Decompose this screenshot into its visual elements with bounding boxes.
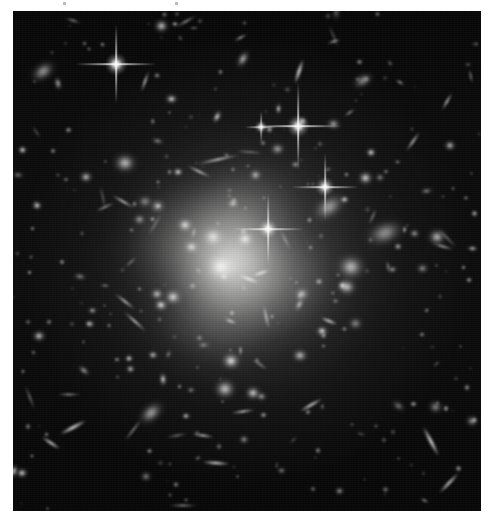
elliptical-galaxy: [336, 277, 358, 296]
lensed-arc: [420, 498, 430, 505]
field-point-source: [414, 86, 416, 88]
field-point-source: [50, 51, 54, 55]
elliptical-galaxy: [244, 385, 262, 401]
cluster-halo: [95, 121, 395, 401]
field-point-source: [30, 454, 34, 458]
diffraction-spike-star: [245, 111, 277, 143]
galaxy: [17, 145, 28, 155]
star-core: [258, 219, 277, 238]
field-point-source: [439, 244, 441, 246]
field-point-source: [410, 401, 416, 407]
field-point-source: [356, 77, 359, 80]
field-point-source: [364, 268, 370, 274]
elliptical-galaxy: [213, 378, 237, 399]
lensed-arc: [395, 79, 405, 87]
elliptical-galaxy: [176, 217, 194, 233]
galaxy: [402, 225, 407, 234]
lensed-arc: [432, 361, 440, 368]
lensed-arc: [386, 260, 390, 273]
lensed-arc: [41, 435, 61, 451]
field-point-source: [424, 309, 428, 313]
field-point-source: [120, 267, 125, 272]
galaxy: [341, 326, 348, 332]
field-point-source: [455, 465, 462, 472]
field-point-source: [167, 169, 173, 175]
galaxy: [274, 101, 282, 115]
field-point-source: [283, 129, 285, 131]
field-point-source: [363, 478, 366, 481]
field-point-source: [314, 456, 317, 459]
field-point-source: [452, 410, 454, 412]
galaxy: [394, 159, 402, 164]
field-point-source: [197, 18, 203, 24]
field-point-source: [464, 384, 471, 391]
field-point-source: [21, 369, 25, 373]
diffraction-spike-star: [76, 24, 156, 104]
galaxy: [291, 348, 308, 363]
field-point-source: [30, 226, 35, 231]
field-point-source: [355, 99, 357, 101]
lensed-arc: [343, 107, 356, 117]
galaxy: [365, 147, 377, 158]
field-point-source: [46, 507, 49, 510]
field-point-source: [471, 210, 478, 217]
lensed-arc: [111, 193, 135, 209]
field-point-source: [332, 298, 339, 305]
field-point-source: [82, 41, 87, 46]
field-point-source: [214, 87, 217, 90]
spike-horizontal: [291, 186, 359, 188]
spike-horizontal: [76, 63, 156, 65]
lensed-arc: [64, 17, 80, 24]
lensed-arc: [368, 208, 377, 226]
lensed-arc: [262, 304, 271, 329]
galaxy: [293, 286, 311, 302]
field-point-source: [137, 287, 142, 292]
field-point-source: [218, 69, 223, 74]
field-point-source: [374, 424, 378, 428]
lensed-arc: [147, 211, 164, 237]
lensed-arc: [99, 284, 109, 288]
galaxy: [195, 341, 211, 351]
field-point-source: [314, 147, 317, 150]
field-point-source: [441, 195, 445, 199]
field-point-source: [29, 255, 33, 259]
field-point-source: [425, 308, 429, 312]
galaxy: [153, 18, 171, 34]
field-point-source: [20, 502, 23, 505]
field-point-source: [275, 462, 279, 466]
galaxy: [290, 160, 301, 170]
field-point-source: [315, 447, 322, 454]
field-point-source: [242, 21, 246, 25]
field-point-source: [219, 377, 223, 381]
field-point-source: [157, 317, 163, 323]
field-point-source: [216, 221, 221, 226]
spike-horizontal: [254, 125, 342, 127]
elliptical-galaxy: [306, 187, 351, 228]
lensed-arc: [175, 15, 197, 29]
field-point-source: [240, 228, 247, 235]
field-point-source: [157, 460, 164, 467]
field-point-source: [383, 169, 389, 175]
galaxy: [52, 75, 64, 93]
elliptical-galaxy: [112, 152, 138, 175]
elliptical-galaxy: [26, 56, 60, 87]
diffraction-spike-star: [254, 82, 342, 170]
field-point-source: [82, 340, 85, 343]
galaxy: [31, 200, 43, 211]
lensed-arc: [405, 130, 421, 151]
field-point-source: [363, 76, 370, 83]
margin-mark: [175, 2, 178, 5]
field-point-source: [336, 273, 340, 277]
galaxy: [219, 272, 229, 281]
core-glow-lobe: [185, 161, 305, 261]
lensed-arc: [327, 23, 340, 49]
lensed-arc: [468, 69, 473, 84]
lensed-arc: [356, 432, 366, 436]
field-point-source: [260, 140, 266, 146]
field-point-source: [194, 430, 200, 436]
field-point-source: [390, 429, 396, 435]
field-point-source: [100, 42, 105, 47]
field-point-source: [160, 36, 163, 39]
field-point-source: [453, 376, 459, 382]
field-point-source: [195, 162, 197, 164]
